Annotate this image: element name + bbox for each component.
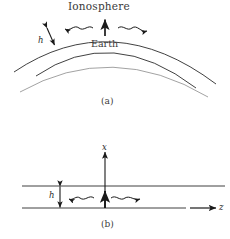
label-earth: Earth <box>91 38 118 49</box>
label-height-h-panel-a: h <box>38 35 43 45</box>
arc-earth-surface <box>36 53 196 88</box>
arc-earth-interior <box>20 67 208 97</box>
wave-right-panel-b <box>111 197 140 200</box>
caption-panel-a: (a) <box>101 96 113 106</box>
figure-vector-canvas <box>0 0 230 239</box>
caption-panel-b: (b) <box>101 219 114 229</box>
panel-a-group <box>14 20 216 98</box>
figure-earth-ionosphere-waveguide: Ionosphere Earth h h x z (a) (b) <box>0 0 230 239</box>
label-axis-x: x <box>102 142 107 152</box>
label-ionosphere: Ionosphere <box>68 0 130 12</box>
wave-left-panel-b <box>69 197 94 200</box>
label-height-h-panel-b: h <box>49 190 54 200</box>
label-axis-z: z <box>219 202 223 212</box>
wave-left-panel-a <box>65 27 93 30</box>
height-h-double-arrow-panel-a <box>47 28 55 45</box>
wave-right-panel-a <box>118 27 147 31</box>
